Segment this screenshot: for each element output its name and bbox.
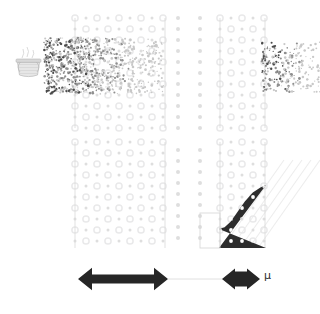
basket-rim [16, 59, 41, 62]
diagram-canvas [0, 0, 320, 314]
diagram-svg [0, 0, 320, 314]
mu-label: μ [264, 270, 271, 281]
